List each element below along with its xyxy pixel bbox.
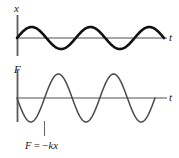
displacement-time-axis-label: t <box>169 31 173 43</box>
displacement-axis-label: x <box>13 2 19 14</box>
figure-canvas: x t F t F = −kx <box>0 0 179 158</box>
force-time-axis-label: t <box>169 91 173 103</box>
figure-root: x t F t F = −kx <box>0 0 179 158</box>
force-axis-label: F <box>13 63 21 75</box>
force-equation-text: F = −kx <box>24 140 58 151</box>
force-panel: F t <box>13 63 173 122</box>
displacement-panel: x t <box>13 2 173 56</box>
force-equation-annotation: F = −kx <box>24 121 58 151</box>
